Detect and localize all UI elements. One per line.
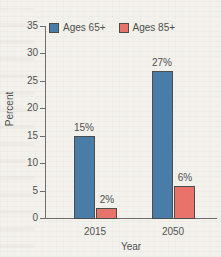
bar-2050-ages-85-plus [174, 186, 195, 219]
legend-label-ages-85-plus: Ages 85+ [133, 22, 176, 33]
y-axis-line [45, 26, 46, 219]
x-axis-title: Year [45, 241, 217, 252]
y-axis-tick-10 [40, 163, 45, 164]
bar-label-2050-ages-65-plus: 27% [142, 58, 182, 68]
y-axis-tick-25 [40, 81, 45, 82]
bar-2015-ages-65-plus [74, 136, 95, 219]
y-axis-tick-30 [40, 53, 45, 54]
y-axis-label-35: 35 [12, 21, 38, 31]
y-axis-tick-20 [40, 108, 45, 109]
y-axis-label-0-wrap: 0 [8, 213, 38, 223]
y-axis-label-5: 5 [12, 186, 38, 196]
bar-2015-ages-85-plus [96, 208, 117, 219]
y-axis-label-20: 20 [12, 103, 38, 113]
legend-swatch-ages-65-plus [49, 23, 59, 33]
y-axis-title: Percent [5, 79, 15, 139]
y-axis-label-0: 0 [12, 213, 38, 223]
y-axis-label-15: 15 [12, 131, 38, 141]
bar-label-2015-ages-85-plus: 2% [87, 195, 127, 205]
y-axis-tick-15 [40, 136, 45, 137]
y-axis-label-10: 10 [12, 158, 38, 168]
y-axis-label-30: 30 [12, 48, 38, 58]
y-axis-label-30-wrap: 30 [8, 48, 38, 58]
legend-item-ages-65-plus: Ages 65+ [49, 22, 106, 33]
y-axis-label-35-wrap: 35 [8, 21, 38, 31]
y-axis-label-10-wrap: 10 [8, 158, 38, 168]
y-axis-tick-35 [40, 26, 45, 27]
legend-label-ages-65-plus: Ages 65+ [63, 22, 106, 33]
bar-label-2050-ages-85-plus: 6% [165, 173, 205, 183]
bar-label-2015-ages-65-plus: 15% [64, 123, 104, 133]
x-axis-label-2015: 2015 [67, 226, 123, 237]
y-axis-tick-5 [40, 191, 45, 192]
x-axis-label-2050: 2050 [145, 226, 201, 237]
bar-2050-ages-65-plus [152, 71, 173, 219]
legend-swatch-ages-85-plus [119, 23, 129, 33]
chart-legend: Ages 65+ Ages 85+ [49, 22, 175, 33]
bar-chart: Ages 65+ Ages 85+ 35 30 25 20 15 10 5 0 … [0, 0, 221, 257]
legend-item-ages-85-plus: Ages 85+ [119, 22, 176, 33]
y-axis-label-5-wrap: 5 [8, 186, 38, 196]
y-axis-label-25: 25 [12, 76, 38, 86]
